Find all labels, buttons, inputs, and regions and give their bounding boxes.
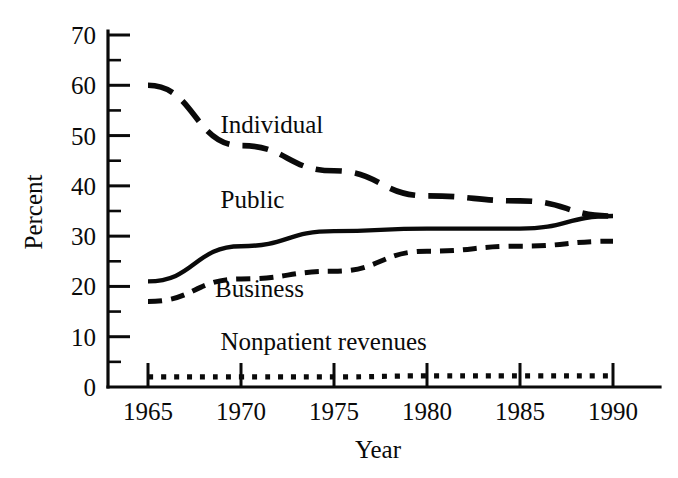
series-label-nonpatient-revenues: Nonpatient revenues: [221, 328, 427, 355]
y-axis-minor-ticks: [108, 60, 121, 362]
x-tick-label: 1975: [309, 398, 359, 425]
x-axis-title: Year: [355, 436, 402, 463]
series-line-nonpatient-revenues: [148, 376, 613, 377]
y-tick-label: 60: [71, 72, 96, 99]
y-tick-label: 20: [71, 273, 96, 300]
y-tick-label: 40: [71, 173, 96, 200]
y-axis-tick-labels: 010203040506070: [71, 22, 96, 401]
chart-figure: 010203040506070 196519701975198019851990…: [0, 0, 678, 478]
y-axis-major-ticks: [108, 35, 130, 337]
y-tick-label: 10: [71, 324, 96, 351]
x-tick-label: 1965: [123, 398, 173, 425]
x-axis-tick-labels: 196519701975198019851990: [123, 398, 638, 425]
series-line-individual: [148, 85, 613, 216]
x-tick-label: 1990: [588, 398, 638, 425]
y-tick-label: 0: [84, 374, 97, 401]
y-tick-label: 50: [71, 123, 96, 150]
line-chart-svg: 010203040506070 196519701975198019851990…: [0, 0, 678, 478]
series-line-public: [148, 216, 613, 281]
series-label-public: Public: [221, 186, 285, 213]
series-label-individual: Individual: [221, 111, 324, 138]
series-label-business: Business: [215, 275, 304, 302]
y-tick-label: 30: [71, 223, 96, 250]
y-axis-title: Percent: [20, 174, 47, 249]
x-tick-label: 1985: [495, 398, 545, 425]
y-tick-label: 70: [71, 22, 96, 49]
x-tick-label: 1980: [402, 398, 452, 425]
x-tick-label: 1970: [216, 398, 266, 425]
